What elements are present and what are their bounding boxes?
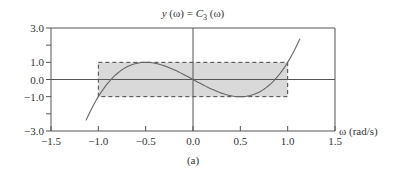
y-tick-label: 0.0	[30, 74, 44, 86]
x-tick-label: −1.0	[88, 135, 108, 147]
x-tick-label: −0.5	[136, 135, 156, 147]
y-tick-label: 1.0	[30, 56, 44, 68]
x-axis-label: ω (rad/s)	[339, 125, 378, 138]
x-tick-label: 0.0	[186, 135, 200, 147]
chart: −1.5−1.0−0.50.00.51.01.53.01.00.0−1.0−3.…	[0, 0, 400, 177]
x-tick-label: 0.5	[233, 135, 247, 147]
y-tick-label: 3.0	[30, 22, 44, 34]
x-tick-label: 1.0	[281, 135, 295, 147]
figure-caption: (a)	[187, 154, 200, 167]
x-tick-label: −1.5	[41, 135, 61, 147]
y-tick-label: −1.0	[24, 91, 44, 103]
y-tick-label: −3.0	[24, 125, 44, 137]
chart-title: y (ω) = C3 (ω)	[161, 7, 225, 22]
